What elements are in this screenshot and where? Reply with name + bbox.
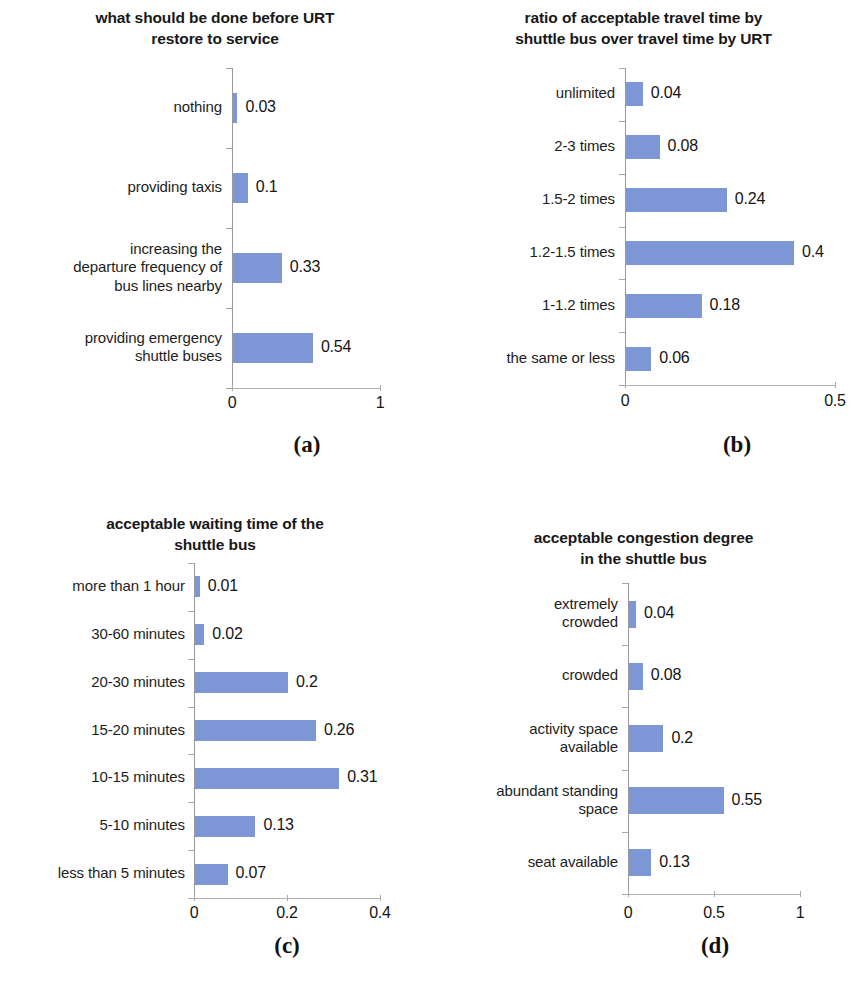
category-label: providing emergency shuttle buses bbox=[0, 329, 222, 366]
bar bbox=[195, 864, 228, 885]
bar bbox=[629, 725, 663, 752]
axis-tick-label: 0 bbox=[190, 904, 199, 922]
category-label: unlimited bbox=[430, 84, 615, 102]
bar bbox=[195, 672, 288, 693]
bar-value-label: 0.03 bbox=[245, 98, 275, 116]
category-label: 15-20 minutes bbox=[0, 721, 185, 739]
category-label: extremely crowded bbox=[430, 595, 618, 632]
bar-value-label: 0.08 bbox=[651, 666, 681, 684]
value-axis-b bbox=[625, 385, 835, 386]
category-tick-a bbox=[226, 228, 232, 229]
bar bbox=[195, 768, 339, 789]
bar bbox=[233, 333, 313, 363]
chart-panel-d: acceptable congestion degree in the shut… bbox=[430, 496, 857, 992]
chart-panel-c: acceptable waiting time of the shuttle b… bbox=[0, 496, 430, 992]
chart-title-c: acceptable waiting time of the shuttle b… bbox=[0, 514, 430, 555]
category-label: seat available bbox=[430, 853, 618, 871]
bar bbox=[195, 576, 200, 597]
bar bbox=[626, 347, 651, 371]
plot-area-a bbox=[232, 68, 380, 388]
category-label: providing taxis bbox=[0, 178, 222, 196]
value-tick-b bbox=[835, 382, 836, 388]
bar-value-label: 0.24 bbox=[735, 190, 765, 208]
category-tick-b bbox=[619, 227, 625, 228]
bar-value-label: 0.08 bbox=[668, 137, 698, 155]
axis-tick-label: 0.4 bbox=[369, 904, 391, 922]
category-tick-a bbox=[226, 308, 232, 309]
value-tick-a bbox=[380, 385, 381, 391]
category-tick-b bbox=[619, 174, 625, 175]
value-tick-d bbox=[714, 891, 715, 897]
category-tick-d bbox=[622, 645, 628, 646]
bar-value-label: 0.2 bbox=[296, 673, 318, 691]
axis-tick-label: 0 bbox=[621, 392, 630, 410]
chart-title-b: ratio of acceptable travel time by shutt… bbox=[430, 8, 857, 49]
bar-value-label: 0.04 bbox=[644, 604, 674, 622]
bar bbox=[233, 173, 248, 203]
bar bbox=[629, 663, 643, 690]
bar bbox=[195, 720, 316, 741]
category-label: 1-1.2 times bbox=[430, 296, 615, 314]
bar-value-label: 0.4 bbox=[802, 243, 824, 261]
category-tick-c bbox=[188, 754, 194, 755]
bar bbox=[233, 93, 237, 123]
category-tick-b bbox=[619, 68, 625, 69]
category-label: activity space available bbox=[430, 720, 618, 757]
bar bbox=[626, 294, 702, 318]
category-label: 2-3 times bbox=[430, 137, 615, 155]
category-tick-b bbox=[619, 279, 625, 280]
value-tick-d bbox=[800, 891, 801, 897]
bar-value-label: 0.04 bbox=[651, 84, 681, 102]
category-label: more than 1 hour bbox=[0, 577, 185, 595]
chart-title-d: acceptable congestion degree in the shut… bbox=[430, 528, 857, 569]
bar bbox=[233, 253, 282, 283]
category-tick-d bbox=[622, 832, 628, 833]
category-tick-d bbox=[622, 770, 628, 771]
bar-value-label: 0.18 bbox=[710, 296, 740, 314]
value-tick-d bbox=[628, 891, 629, 897]
category-tick-d bbox=[622, 707, 628, 708]
bar bbox=[626, 188, 727, 212]
category-tick-a bbox=[226, 148, 232, 149]
category-tick-b bbox=[619, 332, 625, 333]
bar-value-label: 0.01 bbox=[208, 577, 238, 595]
axis-tick-label: 0 bbox=[228, 394, 237, 412]
category-label: the same or less bbox=[430, 349, 615, 367]
value-axis-a bbox=[232, 388, 380, 389]
bar-value-label: 0.26 bbox=[324, 721, 354, 739]
category-tick-c bbox=[188, 850, 194, 851]
bar bbox=[629, 849, 651, 876]
bar-value-label: 0.55 bbox=[732, 791, 762, 809]
bar bbox=[629, 787, 724, 814]
chart-panel-a: what should be done before URT restore t… bbox=[0, 0, 430, 496]
bar-value-label: 0.54 bbox=[321, 338, 351, 356]
category-tick-c bbox=[188, 611, 194, 612]
panel-caption-d: (d) bbox=[701, 933, 729, 959]
axis-tick-label: 0.2 bbox=[276, 904, 298, 922]
category-label: abundant standing space bbox=[430, 782, 618, 819]
category-label: 10-15 minutes bbox=[0, 768, 185, 786]
axis-tick-label: 1 bbox=[796, 904, 805, 922]
category-tick-c bbox=[188, 802, 194, 803]
category-label: less than 5 minutes bbox=[0, 864, 185, 882]
bar bbox=[195, 816, 255, 837]
chart-title-a: what should be done before URT restore t… bbox=[0, 8, 430, 49]
axis-tick-label: 0.5 bbox=[703, 904, 725, 922]
category-tick-b bbox=[619, 121, 625, 122]
value-tick-c bbox=[194, 895, 195, 901]
category-tick-a bbox=[226, 68, 232, 69]
category-tick-d bbox=[622, 583, 628, 584]
bar-value-label: 0.1 bbox=[256, 178, 278, 196]
category-tick-c bbox=[188, 563, 194, 564]
category-label: 30-60 minutes bbox=[0, 625, 185, 643]
panel-caption-c: (c) bbox=[274, 933, 300, 959]
category-axis-b bbox=[625, 68, 626, 385]
category-tick-c bbox=[188, 659, 194, 660]
bar-value-label: 0.02 bbox=[212, 625, 242, 643]
category-tick-c bbox=[188, 707, 194, 708]
bar-value-label: 0.13 bbox=[263, 816, 293, 834]
bar bbox=[195, 624, 204, 645]
plot-area-b bbox=[625, 68, 835, 385]
panel-caption-b: (b) bbox=[723, 432, 751, 458]
plot-area-d bbox=[628, 583, 800, 894]
